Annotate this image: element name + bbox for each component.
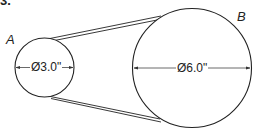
pulley-b-diameter: Ø6.0" [176,62,208,74]
pulley-a-label: A [6,32,15,47]
pulley-a-diameter: Ø3.0" [30,61,62,73]
problem-number: 3. [0,0,11,8]
pulley-b-label: B [237,9,246,24]
